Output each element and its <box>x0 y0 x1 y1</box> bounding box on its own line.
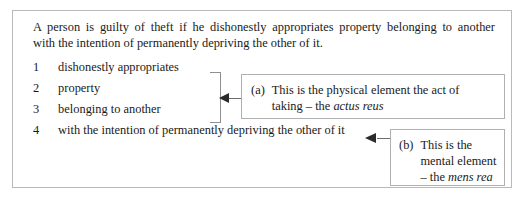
item4-connector-line <box>377 138 391 139</box>
element-number-2: 2 <box>33 78 55 99</box>
callout-b-latin-term: mens rea <box>448 170 493 184</box>
callout-a-latin-term: actus reus <box>333 99 383 113</box>
callout-b-body: This is the mental element – the mens re… <box>420 137 496 185</box>
callout-box-a: (a) This is the physical element the act… <box>241 74 505 119</box>
element-label-4: with the intention of permanently depriv… <box>58 120 345 141</box>
figure-frame: A person is guilty of theft if he dishon… <box>12 10 512 188</box>
callout-a-line-2-text: taking – the <box>272 99 334 113</box>
callout-a-body: This is the physical element the act of … <box>272 82 460 114</box>
statute-definition-text: A person is guilty of theft if he dishon… <box>33 20 495 51</box>
element-number-1: 1 <box>33 57 55 78</box>
left-arrow-icon <box>365 133 376 143</box>
statute-line-1: A person is guilty of theft if he dishon… <box>33 20 495 36</box>
element-number-4: 4 <box>33 120 55 141</box>
callout-b-line-3: – the mens rea <box>420 169 496 185</box>
callout-b-marker: (b) <box>399 137 420 153</box>
callout-b-line-2: mental element <box>420 153 496 169</box>
callout-box-b: (b) This is the mental element – the men… <box>390 129 505 186</box>
callout-b-line-1: This is the <box>420 137 496 153</box>
callout-a-marker: (a) <box>251 82 272 98</box>
element-label-1: dishonestly appropriates <box>58 57 179 78</box>
callout-a-line-2: taking – the actus reus <box>272 98 460 114</box>
left-arrow-icon <box>219 93 229 103</box>
element-label-2: property <box>58 78 100 99</box>
statute-line-2: with the intention of permanently depriv… <box>33 36 495 52</box>
element-row-4: 4 with the intention of permanently depr… <box>33 120 383 141</box>
callout-a-line-1: This is the physical element the act of <box>272 82 460 98</box>
callout-b-line-3-text: – the <box>420 170 448 184</box>
element-number-3: 3 <box>33 99 55 120</box>
element-label-3: belonging to another <box>58 99 161 120</box>
